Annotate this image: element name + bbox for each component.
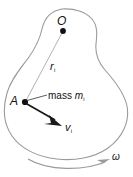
mass-leader-line — [27, 95, 47, 101]
mass-word: mass — [48, 90, 75, 101]
omega-arrow-curve — [28, 159, 105, 168]
label-mass-mi: mass mi — [48, 91, 84, 101]
label-origin-o: O — [57, 15, 66, 27]
velocity-symbol: v — [65, 121, 71, 133]
rigid-body-rotation-figure: O ri A mass mi vi ω — [0, 0, 133, 177]
rigid-body-outline — [4, 9, 127, 160]
omega-arrow-head — [97, 159, 110, 166]
label-velocity-vi: vi — [65, 122, 72, 133]
label-point-a: A — [10, 95, 18, 107]
label-angular-velocity-omega: ω — [112, 152, 120, 162]
point-o-marker — [60, 28, 66, 34]
velocity-subscript: i — [71, 128, 72, 134]
label-radius-ri: ri — [50, 61, 55, 72]
mass-subscript: i — [83, 96, 84, 102]
mass-symbol: m — [75, 90, 83, 101]
velocity-arrow-head — [44, 115, 62, 126]
